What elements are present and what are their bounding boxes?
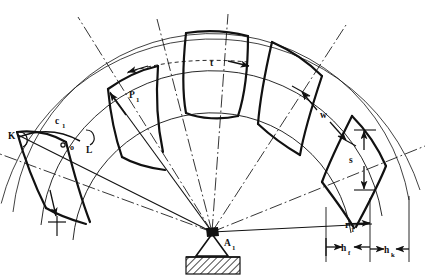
origin-dot-marker xyxy=(61,143,65,147)
tooth-root-4 xyxy=(258,124,300,155)
figure-canvas: K c 1 o L P 1 t w s r 1 h f h k A 1 xyxy=(0,0,427,277)
ground-hatching xyxy=(186,257,240,274)
label-l: L xyxy=(86,145,92,155)
label-c1-subscript: 1 xyxy=(62,122,66,129)
label-p1-subscript: 1 xyxy=(136,96,140,103)
centerline-mid-right xyxy=(212,14,228,232)
label-a1: A xyxy=(224,238,231,248)
p1-pointer xyxy=(110,93,126,115)
centerline-right xyxy=(212,25,346,232)
radial-dimensions xyxy=(212,196,409,262)
label-t: t xyxy=(210,58,214,68)
w-ref-tick-upper xyxy=(292,86,310,96)
label-c1: c xyxy=(55,116,59,126)
gear-geometry-figure: K c 1 o L P 1 t w s r 1 h f h k A 1 xyxy=(0,0,427,277)
tooth-profile-2 xyxy=(108,66,158,89)
label-origin-marker: o xyxy=(70,143,74,152)
label-w: w xyxy=(320,110,327,120)
tooth-flank-4-right xyxy=(300,76,322,155)
centerline-left-outer xyxy=(0,154,212,232)
pitch-dimension-t xyxy=(127,60,249,73)
label-hk-subscript: k xyxy=(391,251,395,258)
tooth-flank-5-right xyxy=(356,166,386,227)
label-a1-subscript: 1 xyxy=(232,244,236,251)
gear-tooth-profiles xyxy=(17,31,386,228)
tooth-flank-3-right xyxy=(238,36,248,116)
p1-arrow xyxy=(110,93,126,115)
radial-rays xyxy=(18,92,212,232)
pitch-and-root-arcs xyxy=(41,71,382,240)
tooth-flank-4-left xyxy=(258,42,272,124)
tooth-flank-1-left xyxy=(17,132,46,208)
centerline-left xyxy=(78,17,212,232)
label-s: s xyxy=(349,155,353,165)
label-r1-subscript: 1 xyxy=(351,226,355,233)
tooth-profile-5 xyxy=(352,116,386,166)
label-hf-subscript: f xyxy=(348,249,351,256)
angle-mark-l xyxy=(86,130,94,145)
tooth-profile-4 xyxy=(272,42,322,76)
centerline-right-outer xyxy=(212,146,425,232)
label-k: K xyxy=(8,131,16,141)
label-hk: h xyxy=(384,245,390,255)
label-hf: h xyxy=(341,243,347,253)
tooth-flank-5-left xyxy=(322,116,352,182)
ray-to-k xyxy=(18,135,212,232)
label-p1: P xyxy=(129,90,135,100)
